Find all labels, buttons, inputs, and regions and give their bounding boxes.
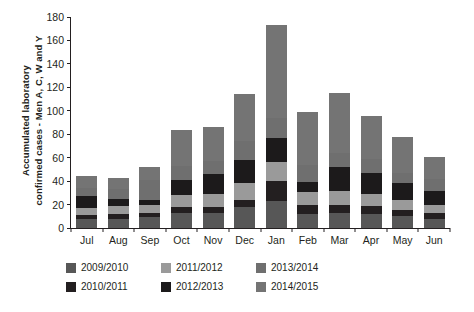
bar-segment xyxy=(297,112,318,165)
legend-item-2012-2013[interactable]: 2012/2013 xyxy=(161,277,256,296)
bar-segment xyxy=(139,217,160,228)
x-axis-tick-mark xyxy=(102,228,103,232)
bar-nov[interactable] xyxy=(203,127,224,228)
legend-label: 2010/2011 xyxy=(81,281,128,292)
bar-segment xyxy=(361,173,382,194)
legend-item-2011-2012[interactable]: 2011/2012 xyxy=(161,258,256,277)
bar-segment xyxy=(234,94,255,141)
bar-apr[interactable] xyxy=(361,116,382,229)
bar-jun[interactable] xyxy=(424,157,445,228)
bar-segment xyxy=(297,165,318,183)
y-axis-tick-mark xyxy=(67,157,71,158)
bar-segment xyxy=(329,213,350,228)
bar-sep[interactable] xyxy=(139,167,160,228)
x-axis-tick-mark xyxy=(323,228,324,232)
y-axis-tick-label: 140 xyxy=(45,58,64,70)
y-axis-title-line-1: Accumulated laboratory xyxy=(21,35,34,205)
bar-segment xyxy=(329,153,350,167)
y-axis-tick-80: 80 xyxy=(45,128,71,140)
bar-segment xyxy=(297,205,318,214)
bar-segment xyxy=(329,191,350,205)
legend-item-2010-2011[interactable]: 2010/2011 xyxy=(66,277,161,296)
bar-segment xyxy=(361,159,382,173)
legend-swatch xyxy=(66,282,76,292)
x-axis-tick-mark xyxy=(260,228,261,232)
bar-oct[interactable] xyxy=(171,130,192,228)
y-axis-tick-mark xyxy=(67,204,71,205)
bar-segment xyxy=(361,206,382,214)
bar-segment xyxy=(139,180,160,200)
bar-segment xyxy=(108,178,129,190)
bar-feb[interactable] xyxy=(297,112,318,228)
plot-area: 020406080100120140160180 JulAugSepOctNov… xyxy=(71,17,450,228)
bar-segment xyxy=(424,179,445,191)
bar-segment xyxy=(234,160,255,183)
legend-item-2014-2015[interactable]: 2014/2015 xyxy=(256,277,351,296)
bar-segment xyxy=(171,213,192,228)
legend-label: 2011/2012 xyxy=(176,262,223,273)
y-axis-tick-mark xyxy=(67,87,71,88)
legend-label: 2013/2014 xyxy=(271,262,318,273)
x-axis-label-sep: Sep xyxy=(141,234,160,246)
bar-segment xyxy=(203,174,224,194)
x-axis-tick-mark xyxy=(418,228,419,232)
bar-segment xyxy=(266,162,287,181)
bar-segment xyxy=(361,214,382,228)
legend-swatch xyxy=(161,263,171,273)
x-axis-label-jul: Jul xyxy=(80,234,93,246)
bar-segment xyxy=(424,191,445,205)
bar-segment xyxy=(108,199,129,206)
legend-item-2013-2014[interactable]: 2013/2014 xyxy=(256,258,351,277)
bar-segment xyxy=(424,205,445,213)
x-axis-label-nov: Nov xyxy=(204,234,223,246)
legend-item-2009-2010[interactable]: 2009/2010 xyxy=(66,258,161,277)
bar-jul[interactable] xyxy=(76,176,97,228)
bar-segment xyxy=(203,127,224,161)
bar-segment xyxy=(392,183,413,199)
bar-segment xyxy=(76,208,97,215)
bar-segment xyxy=(108,219,129,228)
bar-jan[interactable] xyxy=(266,25,287,228)
x-axis-tick-mark xyxy=(292,228,293,232)
bar-aug[interactable] xyxy=(108,178,129,228)
bar-segment xyxy=(203,161,224,174)
y-axis-tick-20: 20 xyxy=(45,199,71,211)
y-axis-tick-mark xyxy=(67,134,71,135)
bar-may[interactable] xyxy=(392,137,413,228)
y-axis-tick-100: 100 xyxy=(45,105,71,117)
x-axis-label-aug: Aug xyxy=(109,234,128,246)
bar-mar[interactable] xyxy=(329,93,350,228)
bar-segment xyxy=(266,118,287,138)
y-axis-tick-mark xyxy=(67,17,71,18)
bar-segment xyxy=(76,219,97,228)
legend-swatch xyxy=(256,263,266,273)
y-axis-tick-mark xyxy=(67,110,71,111)
bar-segment xyxy=(266,138,287,163)
x-axis-label-feb: Feb xyxy=(299,234,317,246)
legend-label: 2012/2013 xyxy=(176,281,223,292)
bar-segment xyxy=(234,183,255,199)
bar-segment xyxy=(297,192,318,205)
bar-segment xyxy=(76,196,97,208)
y-axis-tick-mark xyxy=(67,181,71,182)
bar-dec[interactable] xyxy=(234,94,255,228)
bar-segment xyxy=(108,206,129,214)
y-axis-tick-60: 60 xyxy=(45,152,71,164)
bar-segment xyxy=(266,181,287,201)
bar-segment xyxy=(139,205,160,213)
bar-segment xyxy=(329,205,350,213)
legend-swatch xyxy=(66,263,76,273)
bar-segment xyxy=(392,216,413,228)
bar-segment xyxy=(203,213,224,228)
legend-label: 2009/2010 xyxy=(81,262,128,273)
bar-segment xyxy=(234,207,255,228)
y-axis-tick-mark xyxy=(67,40,71,41)
legend-swatch xyxy=(161,282,171,292)
bar-segment xyxy=(392,137,413,173)
bar-segment xyxy=(234,141,255,160)
x-axis-tick-mark xyxy=(355,228,356,232)
y-axis-tick-label: 180 xyxy=(45,11,64,23)
bar-segment xyxy=(392,200,413,211)
bar-segment xyxy=(424,157,445,179)
bar-segment xyxy=(297,182,318,191)
